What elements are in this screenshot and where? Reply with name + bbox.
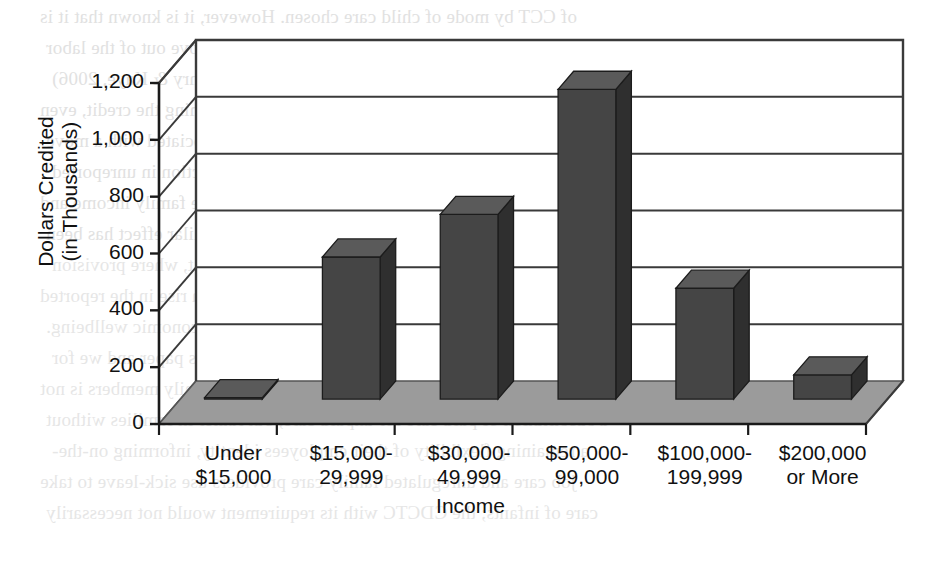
- bar-front-face: [676, 288, 734, 399]
- y-axis-tick-label: 0: [54, 410, 144, 434]
- depth-connector: [159, 324, 196, 367]
- y-axis-title: Dollars Credited (in Thousands): [34, 77, 81, 307]
- y-axis-title-line2: (in Thousands): [58, 77, 82, 307]
- x-axis-ticks: [159, 424, 866, 435]
- bar-side-face: [616, 71, 632, 399]
- x-axis-title: Income: [0, 494, 941, 518]
- x-axis-tick-label-line2: or More: [753, 465, 893, 489]
- y-axis-ticks: [150, 83, 159, 424]
- bar-front-face: [440, 214, 498, 399]
- y-axis-title-line1: Dollars Credited: [34, 77, 58, 307]
- depth-connector: [159, 154, 196, 197]
- bar-front-face: [322, 257, 380, 399]
- x-axis-tick-label: $200,000or More: [753, 441, 893, 489]
- depth-connector-lines: [159, 40, 196, 424]
- bar-front-face: [558, 89, 616, 399]
- depth-connector: [159, 97, 196, 140]
- depth-connector: [159, 267, 196, 310]
- y-axis-tick-label: 200: [54, 353, 144, 377]
- bar-side-face: [734, 270, 750, 399]
- wall-left-depth-edge: [159, 40, 196, 83]
- bar-chart: 02004006008001,0001,200 Dollars Credited…: [0, 0, 941, 561]
- depth-connector: [159, 211, 196, 254]
- x-axis-tick-label-line1: $200,000: [753, 441, 893, 465]
- bar-side-face: [498, 196, 514, 399]
- bar-front-face: [794, 375, 852, 399]
- bar-side-face: [380, 239, 396, 399]
